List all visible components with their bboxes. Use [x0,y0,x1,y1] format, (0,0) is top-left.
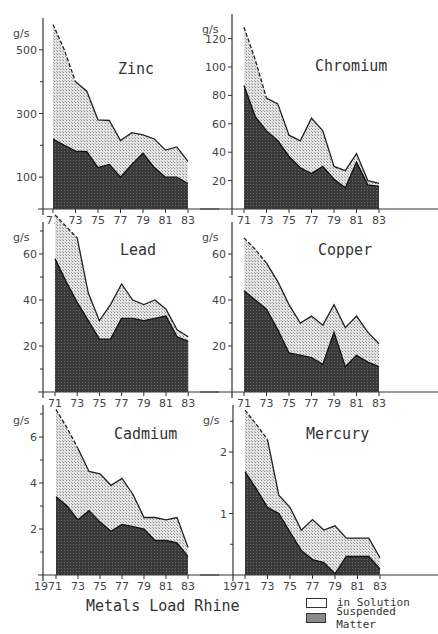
legend-label-suspended-matter: Suspended Matter [336,605,438,631]
y-tick-label: 80 [212,89,226,102]
x-tick-label: 75 [283,580,297,593]
x-tick-label: 73 [69,214,83,227]
x-tick-label: 77 [115,397,129,410]
y-tick-label: 20 [212,340,226,353]
x-tick-label: 77 [305,397,319,410]
legend-swatch-in-solution [306,598,327,608]
x-tick-label: 75 [282,397,296,410]
x-tick-label: 75 [92,397,106,410]
x-tick-label: 81 [351,580,365,593]
y-tick-label: 40 [23,294,37,307]
x-tick-label: 1971 [34,580,62,593]
y-tick-label: 20 [212,175,226,188]
legend-item-suspended-matter: Suspended Matter [306,611,438,624]
y-tick-label: 6 [30,431,37,444]
panel-title: Copper [318,241,372,259]
x-tick-label: 83 [372,214,386,227]
x-tick-label: 1971 [223,580,251,593]
x-tick-label: 79 [137,397,151,410]
panel-title: Mercury [306,425,369,443]
x-tick-label: 73 [71,580,85,593]
panel-copper: 204060g/s71737577798183Copper [200,222,438,410]
y-unit-label: g/s [203,414,220,427]
y-unit-label: g/s [13,27,30,40]
x-tick-label: 75 [91,214,105,227]
panel-chromium: 20406080100120g/s71737577798183Chromium [200,14,438,227]
x-tick-label: 79 [136,214,150,227]
x-tick-label: 83 [181,214,195,227]
x-tick-label: 73 [260,397,274,410]
panel-lead: 204060g/s71737577798183Lead [13,215,219,410]
y-tick-label: 2 [220,446,227,459]
panel-title: Lead [120,241,156,259]
x-tick-label: 75 [93,580,107,593]
y-tick-label: 20 [23,340,37,353]
y-tick-label: 100 [205,61,226,74]
y-unit-label: g/s [202,231,219,244]
y-unit-label: g/s [202,23,219,36]
panel-zinc: 100300500g/s71737577798183Zinc [13,18,219,227]
x-tick-label: 73 [70,397,84,410]
y-unit-label: g/s [13,414,30,427]
panel-title: Chromium [315,57,387,75]
legend: in Solution Suspended Matter [306,596,438,624]
panel-title: Cadmium [114,425,177,443]
panel-title: Zinc [118,60,154,78]
x-tick-label: 77 [305,214,319,227]
x-tick-label: 83 [373,580,387,593]
y-tick-label: 40 [212,294,226,307]
x-tick-label: 83 [372,397,386,410]
x-tick-label: 81 [350,397,364,410]
x-tick-label: 79 [328,580,342,593]
x-tick-label: 71 [48,397,62,410]
x-tick-label: 77 [114,214,128,227]
y-tick-label: 500 [16,44,37,57]
x-tick-label: 79 [327,397,341,410]
y-tick-label: 60 [23,248,37,261]
y-unit-label: g/s [13,231,30,244]
x-tick-label: 81 [159,580,173,593]
x-tick-label: 81 [159,397,173,410]
x-tick-label: 79 [137,580,151,593]
metals-load-figure: 100300500g/s71737577798183Zinc2040608010… [0,0,438,634]
x-tick-label: 75 [282,214,296,227]
legend-swatch-suspended-matter [306,613,326,623]
x-tick-label: 81 [159,214,173,227]
x-tick-label: 71 [237,214,251,227]
y-tick-label: 1 [220,508,227,521]
x-tick-label: 71 [237,397,251,410]
y-tick-label: 300 [16,108,37,121]
x-tick-label: 83 [181,397,195,410]
y-tick-label: 100 [16,171,37,184]
x-tick-label: 77 [115,580,129,593]
x-tick-label: 73 [261,580,275,593]
x-tick-label: 73 [260,214,274,227]
y-tick-label: 4 [30,477,37,490]
y-tick-label: 2 [30,523,37,536]
y-tick-label: 40 [212,146,226,159]
panel-cadmium: 246g/s1971737577798183Cadmium [13,405,219,593]
figure-title: Metals Load Rhine [86,597,240,615]
x-tick-label: 81 [350,214,364,227]
y-tick-label: 60 [212,248,226,261]
x-tick-label: 83 [181,580,195,593]
panel-mercury: 12g/s1971737577798183Mercury [200,405,438,593]
x-tick-label: 79 [327,214,341,227]
y-tick-label: 60 [212,118,226,131]
x-tick-label: 77 [306,580,320,593]
